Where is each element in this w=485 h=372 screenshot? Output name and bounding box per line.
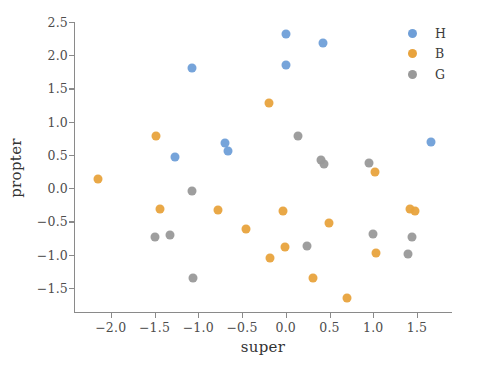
data-point-b xyxy=(371,249,380,258)
data-point-h xyxy=(281,60,290,69)
x-axis-tick xyxy=(155,313,156,318)
data-point-g xyxy=(294,131,303,140)
scatter-plot-figure: −1.5−1.0−0.50.00.51.01.52.02.5−2.0−1.5−1… xyxy=(0,0,485,372)
data-point-b xyxy=(152,131,161,140)
x-axis-tick-label: 1.0 xyxy=(363,320,383,335)
plot-area: −1.5−1.0−0.50.00.51.01.52.02.5−2.0−1.5−1… xyxy=(74,22,452,313)
data-point-h xyxy=(170,152,179,161)
data-point-b xyxy=(280,243,289,252)
y-axis-tick-label: −1.5 xyxy=(37,280,68,295)
data-point-h xyxy=(224,146,233,155)
y-axis-tick xyxy=(69,22,74,23)
x-axis-tick xyxy=(111,313,112,318)
y-axis-tick-label: 0.5 xyxy=(48,147,68,162)
legend-item-g[interactable]: G xyxy=(408,64,478,85)
x-axis-tick xyxy=(286,313,287,318)
legend-marker-icon xyxy=(408,49,417,58)
x-axis-tick-label: −1.5 xyxy=(139,320,170,335)
x-axis-tick-label: 0.5 xyxy=(319,320,339,335)
y-axis-tick-label: −0.5 xyxy=(37,214,68,229)
data-point-g xyxy=(166,231,175,240)
data-point-g xyxy=(320,159,329,168)
x-axis-tick xyxy=(198,313,199,318)
y-axis-tick-label: 0.0 xyxy=(48,181,68,196)
x-axis-tick-label: −1.0 xyxy=(183,320,214,335)
data-point-g xyxy=(364,158,373,167)
data-point-b xyxy=(343,293,352,302)
data-point-g xyxy=(151,232,160,241)
x-axis-tick xyxy=(330,313,331,318)
data-point-h xyxy=(281,29,290,38)
legend-marker-icon xyxy=(408,70,417,79)
y-axis-tick xyxy=(69,155,74,156)
data-point-h xyxy=(188,63,197,72)
data-point-b xyxy=(265,99,274,108)
x-axis-tick-label: 1.5 xyxy=(407,320,427,335)
data-point-h xyxy=(427,138,436,147)
data-point-b xyxy=(324,219,333,228)
data-point-b xyxy=(371,168,380,177)
y-axis-tick-label: 2.5 xyxy=(48,15,68,30)
y-axis-label: propter xyxy=(6,22,26,313)
y-axis-tick xyxy=(69,88,74,89)
y-axis-tick-label: 1.5 xyxy=(48,81,68,96)
data-point-b xyxy=(155,204,164,213)
legend-item-h[interactable]: H xyxy=(408,23,478,44)
data-point-h xyxy=(318,38,327,47)
x-axis-tick xyxy=(417,313,418,318)
x-axis-tick xyxy=(373,313,374,318)
data-point-b xyxy=(214,206,223,215)
y-axis-tick-label: 2.0 xyxy=(48,48,68,63)
data-point-b xyxy=(93,175,102,184)
x-axis-tick-label: −0.5 xyxy=(226,320,257,335)
data-point-g xyxy=(404,249,413,258)
y-axis-tick xyxy=(69,55,74,56)
data-point-b xyxy=(308,273,317,282)
data-point-g xyxy=(189,274,198,283)
legend-label: H xyxy=(435,26,446,41)
data-point-b xyxy=(242,224,251,233)
data-point-g xyxy=(369,229,378,238)
x-axis-label: super xyxy=(74,338,452,356)
y-axis-tick xyxy=(69,221,74,222)
legend-label: B xyxy=(435,46,444,61)
legend-marker-icon xyxy=(408,29,417,38)
y-axis-tick-label: −1.0 xyxy=(37,247,68,262)
data-point-g xyxy=(188,187,197,196)
data-point-g xyxy=(407,232,416,241)
data-point-b xyxy=(266,253,275,262)
y-axis-tick-label: 1.0 xyxy=(48,114,68,129)
data-point-b xyxy=(279,207,288,216)
y-axis-tick xyxy=(69,288,74,289)
y-axis-tick xyxy=(69,122,74,123)
data-point-b xyxy=(411,207,420,216)
legend-label: G xyxy=(435,67,445,82)
y-axis-tick xyxy=(69,255,74,256)
y-axis-label-text: propter xyxy=(7,138,25,198)
x-axis-tick xyxy=(242,313,243,318)
x-axis-tick-label: −2.0 xyxy=(95,320,126,335)
data-point-g xyxy=(302,241,311,250)
x-axis-tick-label: 0.0 xyxy=(276,320,296,335)
legend: HBG xyxy=(408,23,478,85)
legend-item-b[interactable]: B xyxy=(408,44,478,65)
y-axis-tick xyxy=(69,188,74,189)
